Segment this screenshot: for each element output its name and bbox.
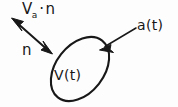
label-velocity-subscript: a — [32, 10, 38, 20]
label-velocity-normal-n: n — [46, 0, 56, 18]
label-boundary-area: a(t) — [137, 18, 163, 32]
normal-vector-arrowhead-lower — [41, 41, 53, 54]
diagram-canvas: Va·n n a(t) V(t) — [0, 0, 178, 107]
label-velocity-normal: Va·n — [22, 2, 56, 20]
label-normal-vector: n — [22, 43, 32, 58]
dot-product-operator-icon: · — [39, 0, 44, 18]
boundary-pointer-shaft — [105, 28, 136, 47]
label-control-volume: V(t) — [54, 68, 81, 82]
